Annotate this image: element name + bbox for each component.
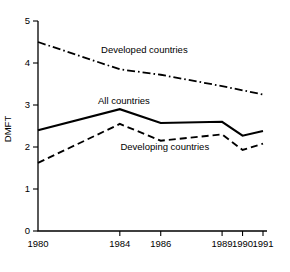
y-axis-title: DMFT (2, 116, 13, 143)
series-line-all-countries (38, 109, 263, 135)
series-label-all-countries: All countries (98, 95, 150, 106)
x-tick-label: 1980 (27, 238, 48, 249)
x-tick-label: 1989 (212, 238, 233, 249)
series-label-developing-countries: Developing countries (120, 141, 209, 152)
chart-container: 012345 198019841986198919901991 DMFT Dev… (0, 0, 290, 272)
y-tick-label: 4 (25, 57, 30, 68)
x-axis-ticks (120, 231, 263, 236)
x-axis-tick-labels: 198019841986198919901991 (27, 238, 273, 249)
y-tick-label: 2 (25, 141, 30, 152)
y-tick-label: 1 (25, 183, 30, 194)
y-tick-label: 5 (25, 15, 30, 26)
dmft-line-chart: 012345 198019841986198919901991 DMFT Dev… (0, 0, 290, 272)
x-tick-label: 1990 (232, 238, 253, 249)
y-tick-label: 3 (25, 99, 30, 110)
x-tick-label: 1991 (252, 238, 273, 249)
series-label-developed-countries: Developed countries (101, 44, 188, 55)
x-tick-label: 1986 (150, 238, 171, 249)
y-axis-tick-labels: 012345 (25, 15, 30, 236)
x-tick-label: 1984 (109, 238, 130, 249)
y-tick-label: 0 (25, 225, 30, 236)
y-axis-ticks (33, 21, 38, 231)
chart-annotations-group: Developed countriesAll countriesDevelopi… (98, 44, 209, 152)
